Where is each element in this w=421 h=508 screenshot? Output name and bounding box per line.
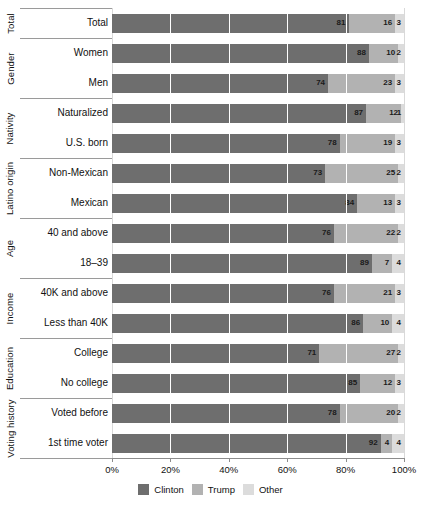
group-separator (20, 218, 112, 219)
bar-value-label: 73 (313, 169, 322, 177)
bar-value-label: 3 (397, 19, 401, 27)
bar-segment-other: 2 (398, 44, 404, 63)
bar-value-label: 10 (380, 319, 389, 327)
bar-segment-clinton: 86 (112, 314, 363, 333)
category-label-non-mexican: Non-Mexican (20, 168, 108, 178)
group-separator (20, 158, 112, 159)
bar-segment-other: 2 (398, 404, 404, 423)
bar-segment-clinton: 88 (112, 44, 369, 63)
bar-value-label: 78 (328, 139, 337, 147)
group-label-text: Education (5, 346, 16, 389)
legend-swatch-other (243, 484, 254, 495)
category-label-40-and-above: 40 and above (20, 228, 108, 238)
bar-value-label: 86 (351, 319, 360, 327)
bar-row: 88102 (112, 44, 404, 63)
bar-value-label: 74 (316, 79, 325, 87)
x-axis-line (112, 458, 405, 459)
group-label-text: Income (5, 292, 16, 324)
bar-value-label: 78 (328, 409, 337, 417)
group-label-gender: Gender (0, 38, 20, 98)
bar-value-label: 92 (369, 439, 378, 447)
gridline-100 (404, 8, 405, 458)
bar-segment-trump: 25 (325, 164, 398, 183)
group-label-education: Education (0, 338, 20, 398)
bar-segment-trump: 4 (381, 434, 393, 453)
bar-row: 81163 (112, 14, 404, 33)
group-label-total: Total (0, 8, 20, 38)
x-tick-40 (229, 458, 230, 462)
legend-label-other: Other (259, 484, 283, 495)
gridline-overlay-20 (170, 8, 171, 458)
bar-segment-clinton: 92 (112, 434, 381, 453)
bar-value-label: 2 (397, 229, 401, 237)
category-label-1st-time-voter: 1st time voter (20, 438, 108, 448)
group-label-income: Income (0, 278, 20, 338)
category-label-men: Men (20, 78, 108, 88)
x-tick-label-100: 100% (392, 464, 416, 475)
gridline-overlay-60 (287, 8, 288, 458)
bar-value-label: 2 (397, 349, 401, 357)
bar-segment-other: 3 (395, 14, 404, 33)
bar-segment-clinton: 81 (112, 14, 349, 33)
group-separator (20, 8, 112, 9)
bar-segment-clinton: 89 (112, 254, 372, 273)
bar-value-label: 4 (397, 439, 401, 447)
legend-swatch-clinton (138, 484, 149, 495)
bar-segment-clinton: 71 (112, 344, 319, 363)
bar-value-label: 1 (397, 109, 401, 117)
bar-segment-trump: 20 (340, 404, 398, 423)
bar-value-label: 3 (397, 289, 401, 297)
bar-segment-trump: 21 (334, 284, 395, 303)
bar-segment-trump: 7 (372, 254, 392, 273)
group-separator (20, 458, 112, 459)
plot-area: 8116388102742338712178193732528413376222… (112, 8, 404, 458)
bar-value-label: 81 (337, 19, 346, 27)
group-label-text: Latino origin (5, 161, 16, 214)
bar-row: 76213 (112, 284, 404, 303)
x-tick-80 (346, 458, 347, 462)
bar-segment-clinton: 76 (112, 224, 334, 243)
bar-segment-other: 4 (392, 254, 404, 273)
x-tick-60 (287, 458, 288, 462)
bar-value-label: 4 (397, 259, 401, 267)
bar-value-label: 76 (322, 289, 331, 297)
bar-segment-clinton: 73 (112, 164, 325, 183)
bar-segment-other: 1 (401, 104, 404, 123)
legend-item-trump[interactable]: Trump (192, 484, 235, 495)
group-label-text: Voting history (5, 399, 16, 457)
legend-item-clinton[interactable]: Clinton (138, 484, 184, 495)
bar-value-label: 89 (360, 259, 369, 267)
bar-row: 87121 (112, 104, 404, 123)
bar-segment-clinton: 78 (112, 134, 340, 153)
bar-row: 73252 (112, 164, 404, 183)
category-label-mexican: Mexican (20, 198, 108, 208)
bar-row: 86104 (112, 314, 404, 333)
bar-segment-trump: 10 (363, 314, 392, 333)
bar-value-label: 20 (386, 409, 395, 417)
bar-segment-other: 3 (395, 284, 404, 303)
category-label-less-than-40k: Less than 40K (20, 318, 108, 328)
bar-value-label: 4 (397, 319, 401, 327)
x-tick-label-20: 20% (161, 464, 180, 475)
bar-value-label: 22 (386, 229, 395, 237)
group-separator (20, 38, 112, 39)
bar-value-label: 21 (383, 289, 392, 297)
category-label-voted-before: Voted before (20, 408, 108, 418)
gridline-overlay-80 (346, 8, 347, 458)
bar-segment-trump: 23 (328, 74, 395, 93)
legend-item-other[interactable]: Other (243, 484, 283, 495)
category-label-18-39: 18–39 (20, 258, 108, 268)
bar-segment-clinton: 78 (112, 404, 340, 423)
bar-value-label: 10 (386, 49, 395, 57)
bar-value-label: 23 (383, 79, 392, 87)
bar-value-label: 2 (397, 409, 401, 417)
bar-segment-trump: 22 (334, 224, 398, 243)
group-separator (20, 278, 112, 279)
group-label-age: Age (0, 218, 20, 278)
bar-segment-other: 4 (392, 434, 404, 453)
bar-row: 71272 (112, 344, 404, 363)
bar-value-label: 25 (386, 169, 395, 177)
bar-value-label: 27 (386, 349, 395, 357)
category-label-naturalized: Naturalized (20, 108, 108, 118)
group-separator (20, 98, 112, 99)
